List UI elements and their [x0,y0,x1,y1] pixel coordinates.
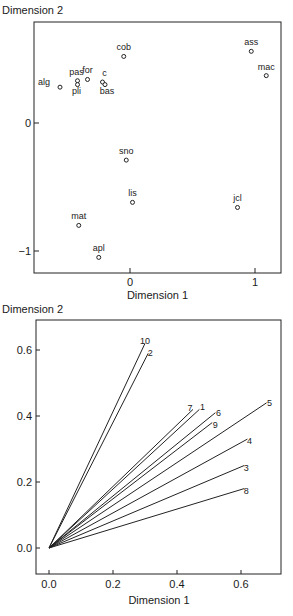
point-label-mac: mac [258,62,276,72]
vector-line-3 [49,466,244,549]
point-label-pli: pli [72,86,81,96]
point-label-apl: apl [93,243,105,253]
point-label-bas: bas [100,86,115,96]
point-label-mat: mat [71,211,87,221]
x-tick-label: 1 [252,276,258,288]
x-tick-label: 0.4 [169,578,184,590]
point-marker-mac [264,74,268,78]
scatter-plot-top: Dimension 20−101Dimension 1assmaccobalgp… [0,0,293,300]
y-tick-label: 0.6 [17,344,32,356]
vector-line-9 [49,423,212,548]
vector-label-2: 2 [148,348,153,358]
point-marker-alg [58,85,62,89]
vector-line-2 [49,353,148,548]
point-label-c: c [102,68,107,78]
vector-plot-bottom: Dimension 20.00.20.40.60.00.20.40.6Dimen… [0,300,293,616]
vector-label-7: 7 [187,403,192,413]
y-tick-label: −1 [18,245,31,257]
vector-line-10 [49,343,145,548]
x-axis-title: Dimension 1 [127,289,188,300]
point-marker-ass [249,49,253,53]
point-label-jcl: jcl [232,193,242,203]
x-tick-label: 0 [127,276,133,288]
vector-label-8: 8 [244,486,249,496]
point-label-cob: cob [116,42,131,52]
x-tick-label: 0.6 [233,578,248,590]
vector-label-5: 5 [267,398,272,408]
point-marker-for [86,77,90,81]
point-marker-lis [131,200,135,204]
vector-label-9: 9 [213,420,218,430]
x-tick-label: 0.2 [105,578,120,590]
vector-line-5 [49,403,267,548]
y-axis-title: Dimension 2 [2,4,63,16]
plot-frame [34,22,281,273]
point-marker-apl [97,255,101,259]
y-tick-label: 0.0 [17,542,32,554]
vector-label-1: 1 [200,402,205,412]
point-label-for: for [82,65,93,75]
vector-line-8 [49,489,244,548]
vector-label-6: 6 [216,408,221,418]
point-marker-jcl [236,205,240,209]
point-label-lis: lis [128,188,137,198]
x-axis-title: Dimension 1 [128,594,189,606]
vector-label-3: 3 [244,463,249,473]
y-tick-label: 0.4 [17,410,32,422]
point-marker-cob [122,54,126,58]
x-tick-label: 0.0 [41,578,56,590]
y-tick-label: 0.2 [17,476,32,488]
point-label-alg: alg [38,77,50,87]
point-marker-mat [77,223,81,227]
vector-line-7 [49,409,193,548]
vector-label-4: 4 [247,436,252,446]
point-marker-sno [124,158,128,162]
y-tick-label: 0 [25,117,31,129]
vector-label-10: 10 [140,336,150,346]
point-label-ass: ass [244,37,259,47]
y-axis-title: Dimension 2 [2,303,63,315]
point-label-sno: sno [119,146,134,156]
vector-line-6 [49,413,215,548]
vector-line-4 [49,439,247,548]
vector-line-1 [49,409,199,548]
